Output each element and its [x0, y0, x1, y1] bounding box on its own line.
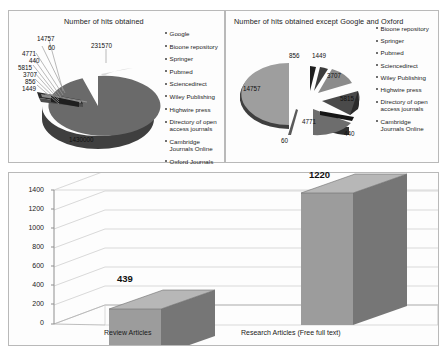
pie1-label-wiley: 440 [29, 57, 40, 64]
pie2-legend: Bioone repository Springer Pubmed Scienc… [376, 25, 438, 137]
pie1-title: Number of hits obtained [64, 17, 144, 26]
bar-chart-svg [9, 173, 438, 345]
legend1-item-google[interactable]: Google [165, 30, 227, 37]
pie2-label-wiley: 440 [344, 130, 355, 137]
legend-swatch-icon [165, 108, 167, 110]
legend2-item-springer[interactable]: Springer [376, 37, 438, 44]
legend2-label: Cambridge Journals Online [381, 118, 424, 132]
bar-xlabel-review: Review Articles [104, 329, 151, 336]
bar-floor-left [54, 324, 105, 325]
legend1-label: Pubmed [170, 68, 193, 75]
legend1-item-directory[interactable]: Directory of open access journals [165, 118, 227, 132]
pie2-label-highwire: 4771 [302, 118, 316, 125]
legend1-item-wiley[interactable]: Wiley Publishing [165, 93, 227, 100]
legend1-label: Bioone repository [170, 43, 218, 50]
legend-swatch-icon [165, 45, 167, 47]
pie1-slice-google-top [48, 76, 160, 136]
legend2-item-directory[interactable]: Directory of open access journals [376, 98, 438, 112]
bar-ytick-200: 200 [18, 300, 44, 307]
legend-swatch-icon [376, 120, 378, 122]
pie2-label-bioone: 1449 [312, 52, 326, 59]
legend2-item-sciencedirect[interactable]: Sciencedirect [376, 62, 438, 69]
pie2-label-pubmed: 3707 [327, 72, 341, 79]
pie1-legend: Google Bioone repository Springer Pubmed… [165, 30, 227, 170]
pie1-label-sciencedirect: 5815 [18, 64, 32, 71]
pie2-label-cambridge: 14757 [243, 85, 261, 92]
legend1-label: Wiley Publishing [170, 93, 215, 100]
legend-swatch-icon [165, 160, 167, 162]
legend2-label: Bioone repository [381, 25, 429, 32]
panel-bar-chart: 1400 1200 1000 800 600 400 200 0 439 122… [8, 172, 439, 346]
legend1-item-springer[interactable]: Springer [165, 55, 227, 62]
legend1-label: Cambridge Journals Online [170, 138, 213, 152]
legend1-label: Springer [170, 55, 193, 62]
pie1-label-oxford: 231570 [91, 42, 112, 49]
legend-swatch-icon [165, 70, 167, 72]
pie1-graphic [25, 44, 163, 152]
bar-ytick-1000: 1000 [18, 224, 44, 231]
bar2-front-face [301, 193, 353, 325]
bar2-side-face [353, 174, 407, 325]
bar1-value-label: 439 [117, 273, 133, 284]
legend-swatch-icon [376, 40, 378, 42]
pie2-label-directory: 60 [281, 137, 288, 144]
bar-ytick-1200: 1200 [18, 205, 44, 212]
pie1-label-cambridge: 14757 [37, 35, 55, 42]
pie2-label-sciencedirect: 5815 [340, 95, 354, 102]
legend-swatch-icon [376, 76, 378, 78]
legend1-item-cambridge[interactable]: Cambridge Journals Online [165, 138, 227, 152]
pie1-label-pubmed: 3707 [23, 71, 37, 78]
legend-swatch-icon [165, 121, 167, 123]
legend1-item-highwire[interactable]: Highwire press [165, 106, 227, 113]
pie2-slice-cambridge-top [241, 63, 289, 125]
legend2-label: Wiley Publishing [381, 74, 426, 81]
legend2-label: Directory of open access journals [381, 98, 428, 112]
legend-swatch-icon [165, 83, 167, 85]
panel-pie-google-excluded: Number of hits obtained except Google an… [225, 10, 439, 163]
legend-swatch-icon [165, 140, 167, 142]
bar-xlabel-research: Research Articles (Free full text) [241, 329, 341, 336]
pie1-label-google: 1430000 [69, 136, 94, 143]
bar-review-articles[interactable] [109, 290, 215, 345]
legend-swatch-icon [376, 101, 378, 103]
legend1-label: Sciencedirect [170, 80, 207, 87]
legend-swatch-icon [376, 52, 378, 54]
legend2-item-pubmed[interactable]: Pubmed [376, 49, 438, 56]
legend1-item-pubmed[interactable]: Pubmed [165, 68, 227, 75]
legend1-label: Google [170, 30, 190, 37]
legend1-item-bioone[interactable]: Bioone repository [165, 43, 227, 50]
bar1-front-face [109, 309, 161, 345]
pie1-svg [25, 44, 163, 152]
legend-swatch-icon [376, 27, 378, 29]
pie1-label-springer: 856 [25, 78, 36, 85]
legend1-item-oxford[interactable]: Oxford Journals [165, 158, 227, 165]
legend1-item-sciencedirect[interactable]: Sciencedirect [165, 80, 227, 87]
legend1-label: Directory of open access journals [170, 118, 217, 132]
pie2-graphic [240, 51, 390, 151]
legend2-item-bioone[interactable]: Bioone repository [376, 25, 438, 32]
pie2-label-springer: 856 [289, 52, 300, 59]
legend2-item-highwire[interactable]: Highwire press [376, 86, 438, 93]
legend2-label: Sciencedirect [381, 62, 418, 69]
pie1-label-highwire: 4771 [22, 50, 36, 57]
legend2-label: Pubmed [381, 49, 404, 56]
legend2-label: Springer [381, 37, 404, 44]
bar-ytick-0: 0 [18, 319, 44, 326]
pie2-slice-directory-top [288, 109, 298, 135]
legend1-label: Highwire press [170, 106, 211, 113]
legend-swatch-icon [165, 58, 167, 60]
pie2-svg [240, 51, 390, 151]
legend2-label: Highwire press [381, 86, 422, 93]
legend1-label: Oxford Journals [170, 158, 214, 165]
panel-pie-google-included: Number of hits obtained [8, 10, 225, 163]
legend-swatch-icon [376, 64, 378, 66]
bar-ytick-800: 800 [18, 243, 44, 250]
legend2-item-cambridge[interactable]: Cambridge Journals Online [376, 118, 438, 132]
legend-swatch-icon [165, 32, 167, 34]
legend2-item-wiley[interactable]: Wiley Publishing [376, 74, 438, 81]
bar-ytick-400: 400 [18, 281, 44, 288]
legend-swatch-icon [165, 95, 167, 97]
legend-swatch-icon [376, 88, 378, 90]
bar-research-articles[interactable] [301, 174, 407, 325]
bar-ytick-1400: 1400 [18, 186, 44, 193]
